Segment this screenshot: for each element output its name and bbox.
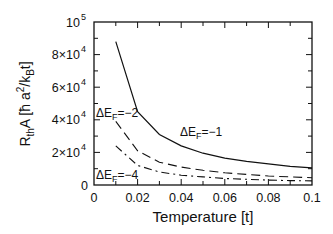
y-tick-6e4-exp: 4	[81, 77, 86, 87]
x-tick-0.1: 0.1	[303, 191, 320, 205]
x-tick-0.06: 0.06	[213, 191, 237, 205]
x-tick-0.02: 0.02	[125, 191, 149, 205]
y-tick-2e4: 2×10	[52, 146, 80, 160]
plot-frame	[94, 22, 312, 185]
x-axis-label: Temperature [t]	[153, 208, 254, 225]
series-solid-dEF-minus1	[116, 42, 312, 168]
annotation-dEF-minus4: ΔEF=−4	[96, 168, 139, 184]
x-tick-0.04: 0.04	[169, 191, 193, 205]
svg-text:RthA [ħ a2/kBt]: RthA [ħ a2/kBt]	[15, 61, 36, 146]
y-tick-1e5: 10	[66, 16, 80, 30]
chart: 0 2×10 4 4×10 4 6×10 4 8×10 4 10 5 0 0.0…	[0, 0, 333, 234]
annotation-dEF-minus2: ΔEF=−2	[96, 106, 139, 122]
annotation-dEF-minus1: ΔEF=−1	[180, 125, 223, 141]
y-axis-label: RthA [ħ a2/kBt]	[15, 61, 36, 146]
y-tick-8e4-exp: 4	[81, 44, 86, 54]
y-tick-0: 0	[81, 179, 88, 193]
y-tick-4e4-exp: 4	[81, 109, 86, 119]
x-tick-0.08: 0.08	[256, 191, 280, 205]
series-dashdot-dEF-minus4	[116, 146, 312, 181]
y-ticks	[94, 38, 312, 168]
y-tick-2e4-exp: 4	[81, 142, 86, 152]
y-tick-1e5-exp: 5	[81, 12, 86, 22]
y-tick-6e4: 6×10	[52, 81, 80, 95]
x-tick-0: 0	[91, 191, 98, 205]
y-tick-8e4: 8×10	[52, 48, 80, 62]
x-ticks	[116, 22, 290, 185]
y-tick-4e4: 4×10	[52, 113, 80, 127]
